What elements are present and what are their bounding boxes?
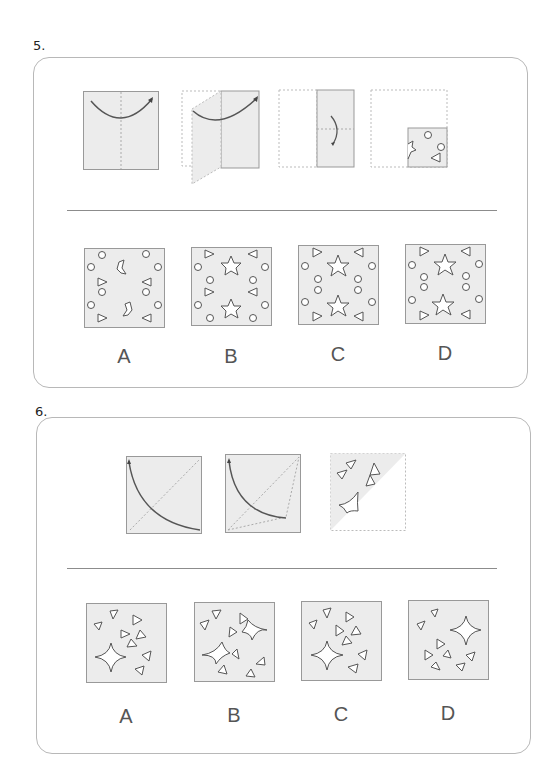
q6-option-a-figure[interactable] bbox=[86, 603, 167, 687]
q5-option-b-label[interactable]: B bbox=[211, 345, 251, 368]
q6-option-d-label[interactable]: D bbox=[428, 702, 468, 725]
q5-option-b-figure[interactable] bbox=[191, 247, 272, 330]
q6-option-a-label[interactable]: A bbox=[106, 705, 146, 728]
q6-option-d-figure[interactable] bbox=[408, 600, 489, 684]
q6-option-c-label[interactable]: C bbox=[321, 703, 361, 726]
q5-option-c-figure[interactable] bbox=[298, 245, 379, 329]
q5-option-a-label[interactable]: A bbox=[104, 345, 144, 368]
q5-option-d-label[interactable]: D bbox=[425, 342, 465, 365]
q5-option-c-label[interactable]: C bbox=[318, 343, 358, 366]
q6-fold-step-2 bbox=[225, 454, 301, 533]
q6-option-c-figure[interactable] bbox=[301, 601, 382, 685]
q5-divider bbox=[67, 210, 497, 211]
q6-option-b-figure[interactable] bbox=[194, 602, 275, 686]
q5-fold-step-1 bbox=[83, 91, 159, 170]
q5-fold-step-2 bbox=[181, 89, 261, 184]
q5-fold-step-4 bbox=[370, 89, 450, 169]
q5-option-d-figure[interactable] bbox=[405, 244, 486, 328]
q6-fold-step-1 bbox=[126, 456, 202, 534]
question-number-5: 5. bbox=[33, 38, 45, 53]
q6-fold-step-3 bbox=[330, 453, 407, 532]
q5-option-a-figure[interactable] bbox=[84, 248, 165, 332]
question-number-6: 6. bbox=[35, 404, 47, 419]
q6-divider bbox=[67, 568, 497, 569]
q6-option-b-label[interactable]: B bbox=[214, 704, 254, 727]
q5-fold-step-3 bbox=[278, 89, 356, 169]
